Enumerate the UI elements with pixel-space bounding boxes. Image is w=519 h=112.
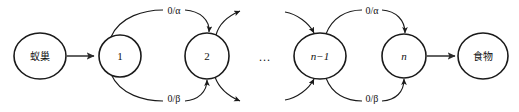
node-n-label: n bbox=[401, 50, 407, 62]
edge-in-nm1-upper-left bbox=[285, 12, 314, 33]
node-food-label: 食物 bbox=[473, 50, 493, 62]
node-n[interactable]: n bbox=[382, 34, 426, 78]
node-n-minus-1[interactable]: n−1 bbox=[294, 33, 346, 79]
node-2[interactable]: 2 bbox=[185, 33, 229, 79]
edge-2-out-upper-right bbox=[216, 11, 240, 35]
node-2-label: 2 bbox=[204, 50, 210, 62]
edge-label-beta-right: 0/β bbox=[366, 93, 379, 104]
edge-1-to-2-bottom bbox=[111, 74, 207, 101]
node-nest[interactable]: 蚁巢 bbox=[14, 33, 66, 79]
edge-in-nm1-lower-left bbox=[285, 79, 314, 100]
edge-label-beta-left: 0/β bbox=[168, 93, 181, 104]
edge-2-out-lower-right bbox=[215, 77, 240, 101]
node-1-label: 1 bbox=[117, 50, 123, 62]
ellipsis-label: ... bbox=[259, 50, 271, 64]
node-1[interactable]: 1 bbox=[99, 35, 141, 77]
node-nest-label: 蚁巢 bbox=[30, 50, 50, 62]
diagram-canvas: 蚁巢 1 2 n−1 n 食物 ... 0/α 0/β 0/α 0/β bbox=[0, 0, 519, 112]
node-n-minus-1-label: n−1 bbox=[311, 50, 329, 62]
edge-label-alpha-right: 0/α bbox=[365, 5, 379, 16]
ant-colony-diagram: 蚁巢 1 2 n−1 n 食物 ... 0/α 0/β 0/α 0/β bbox=[0, 0, 519, 112]
node-food[interactable]: 食物 bbox=[458, 33, 508, 79]
edge-label-alpha-left: 0/α bbox=[167, 5, 181, 16]
edge-1-to-2-top bbox=[111, 10, 209, 37]
